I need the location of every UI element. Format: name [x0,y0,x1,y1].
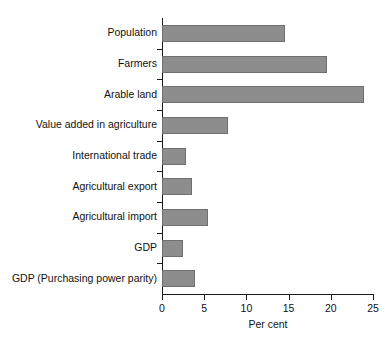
x-tick [289,295,290,300]
bar [162,148,186,165]
y-tick [157,110,162,111]
x-tick-label: 5 [189,302,219,314]
x-tick-label: 0 [147,302,177,314]
bar [162,86,364,103]
category-label: Value added in agriculture [0,119,157,130]
category-label: GDP (Purchasing power parity) [0,273,157,284]
y-tick [157,202,162,203]
x-tick [373,295,374,300]
category-label: GDP [0,242,157,253]
x-tick [162,295,163,300]
y-tick [157,79,162,80]
bar [162,178,192,195]
y-tick [157,49,162,50]
y-tick [157,263,162,264]
category-label: Agricultural import [0,211,157,222]
category-label: International trade [0,150,157,161]
bar [162,56,327,73]
x-tick-label: 10 [231,302,261,314]
bar [162,117,228,134]
x-tick [331,295,332,300]
x-tick [204,295,205,300]
category-label: Farmers [0,58,157,69]
category-label: Agricultural export [0,181,157,192]
y-tick [157,233,162,234]
x-tick-label: 25 [358,302,388,314]
bar [162,240,183,257]
x-tick-label: 15 [274,302,304,314]
bar-chart: PopulationFarmersArable landValue added … [0,0,391,337]
y-tick [157,141,162,142]
category-label: Arable land [0,89,157,100]
x-tick [246,295,247,300]
y-tick [157,171,162,172]
category-label: Population [0,27,157,38]
bar [162,209,208,226]
x-axis-line [162,294,374,295]
bar [162,25,285,42]
x-tick-label: 20 [316,302,346,314]
bar [162,270,195,287]
x-axis-title: Per cent [162,318,374,330]
